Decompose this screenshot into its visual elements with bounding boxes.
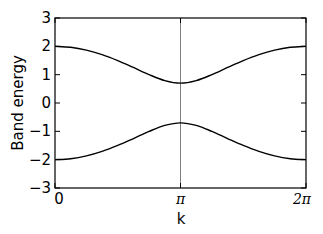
x-tick-label: 0 <box>54 190 64 208</box>
band-structure-chart: 3210−1−2−3 0π2π k Band energy <box>0 0 323 234</box>
y-tick-label: −3 <box>29 179 51 197</box>
y-axis-ticks: 3210−1−2−3 <box>29 9 306 197</box>
x-tick-label: π <box>175 191 186 207</box>
y-tick-label: 2 <box>41 37 51 55</box>
y-tick-label: −1 <box>29 122 51 140</box>
x-axis-ticks: 0π2π <box>54 18 312 208</box>
y-tick-label: 3 <box>41 9 51 27</box>
x-tick-label: 2π <box>292 191 312 207</box>
x-axis-label: k <box>177 210 186 228</box>
y-tick-label: 0 <box>41 94 51 112</box>
y-tick-label: −2 <box>29 151 51 169</box>
y-axis-label: Band energy <box>9 55 27 151</box>
y-tick-label: 1 <box>41 66 51 84</box>
